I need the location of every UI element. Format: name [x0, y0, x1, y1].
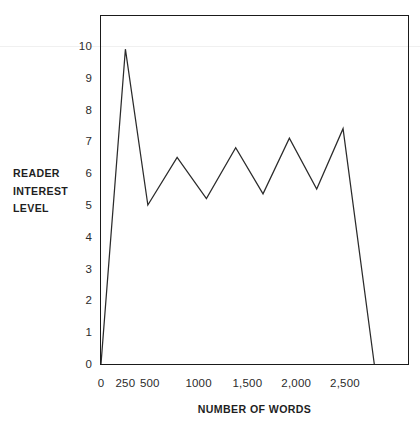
y-axis-title-line-3: LEVEL: [13, 200, 75, 218]
data-line-series: [101, 49, 374, 364]
x-axis-tick-500: 500: [140, 377, 160, 389]
x-axis-tick-1500: 1,500: [233, 377, 263, 389]
chart-container: 012345678910 025050010001,5002,0002,500 …: [0, 0, 420, 435]
y-axis-title-line-1: READER: [13, 165, 75, 183]
y-axis-title-line-2: INTEREST: [13, 183, 75, 201]
x-axis-tick-2500: 2,500: [330, 377, 360, 389]
x-axis-title: NUMBER OF WORDS: [100, 403, 409, 415]
data-line-svg: [100, 15, 409, 365]
y-axis-title: READER INTEREST LEVEL: [13, 165, 75, 218]
x-axis-tick-250: 250: [115, 377, 135, 389]
x-axis-tick-1000: 1000: [185, 377, 211, 389]
x-axis-tick-0: 0: [98, 377, 105, 389]
x-axis-tick-2000: 2,000: [281, 377, 311, 389]
